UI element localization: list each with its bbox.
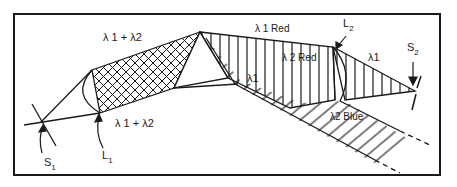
label-s2: S2 (407, 42, 419, 53)
label-l2: L2 (343, 18, 354, 29)
source-s1-rays (24, 70, 100, 146)
label-lambda2-red: λ 2 Red (282, 53, 316, 63)
beam-diagram (0, 0, 457, 187)
label-lambda1-right: λ1 (368, 52, 380, 63)
label-lambda1-inner: λ1 (247, 73, 259, 84)
label-lambda2-blue: λ2 Blue (330, 112, 363, 122)
label-l1: L1 (102, 150, 113, 161)
label-lambda1-plus-lambda2-top: λ 1 + λ2 (103, 32, 142, 43)
label-lambda1-red: λ 1 Red (255, 24, 289, 34)
label-lambda1-plus-lambda2-bottom: λ 1 + λ2 (115, 118, 154, 129)
label-s1: S1 (44, 157, 56, 168)
